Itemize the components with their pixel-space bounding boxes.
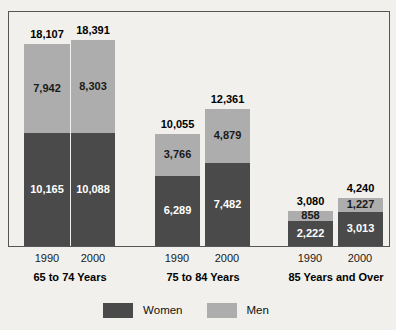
bar-85-years-and-over-1990: 8582,2223,080 [288,211,333,246]
bar-segment-men: 4,879 [205,109,250,163]
bar-segment-women: 3,013 [338,212,383,246]
bar-segment-women: 6,289 [155,176,200,246]
bar-value-women: 2,222 [288,228,333,239]
bar-segment-men: 7,942 [24,44,70,133]
bar-value-men: 1,227 [338,199,383,210]
bar-75-to-84-years-2000: 4,8797,48212,361 [205,109,250,246]
chart-legend: WomenMen [0,303,396,318]
bar-85-years-and-over-2000: 1,2273,0134,240 [338,198,383,246]
bar-value-men: 8,303 [71,81,115,92]
bar-segment-men: 858 [288,211,333,221]
bar-value-women: 7,482 [205,199,250,210]
legend-item-women: Women [103,303,206,318]
bar-segment-men: 8,303 [71,40,115,133]
bar-value-women: 10,088 [71,184,115,195]
bar-65-to-74-years-2000: 8,30310,08818,391 [71,40,115,246]
bar-value-women: 6,289 [155,205,200,216]
bar-segment-men: 1,227 [338,198,383,212]
bar-75-to-84-years-1990: 3,7666,28910,055 [155,134,200,246]
bar-segment-women: 2,222 [288,221,333,246]
bar-segment-men: 3,766 [155,134,200,176]
bar-value-women: 10,165 [24,184,70,195]
bar-total-label: 4,240 [329,183,392,194]
year-label-65-to-74-years-2000: 2000 [63,253,123,264]
legend-label-men: Men [247,305,269,317]
stacked-bar-chart: 7,94210,16518,1078,30310,08818,3913,7666… [0,0,396,330]
bar-total-label: 10,055 [146,119,209,130]
legend-label-women: Women [143,305,182,317]
year-label-85-years-and-over-2000: 2000 [330,253,390,264]
bar-segment-women: 10,165 [24,133,70,246]
group-label-85-years-and-over: 85 Years and Over [256,272,396,283]
year-label-75-to-84-years-2000: 2000 [197,253,257,264]
bar-value-men: 3,766 [155,149,200,160]
bar-total-label: 12,361 [196,94,259,105]
bar-value-men: 4,879 [205,130,250,141]
legend-swatch-women [103,303,133,318]
bar-segment-women: 10,088 [71,133,115,246]
bar-segment-women: 7,482 [205,163,250,246]
legend-swatch-men [207,303,237,318]
bar-value-men: 7,942 [24,83,70,94]
bar-total-label: 18,391 [62,25,124,36]
bar-value-women: 3,013 [338,223,383,234]
legend-item-men: Men [207,303,293,318]
bar-total-label: 3,080 [279,196,342,207]
bar-value-men: 858 [288,210,333,221]
bar-65-to-74-years-1990: 7,94210,16518,107 [24,44,70,246]
